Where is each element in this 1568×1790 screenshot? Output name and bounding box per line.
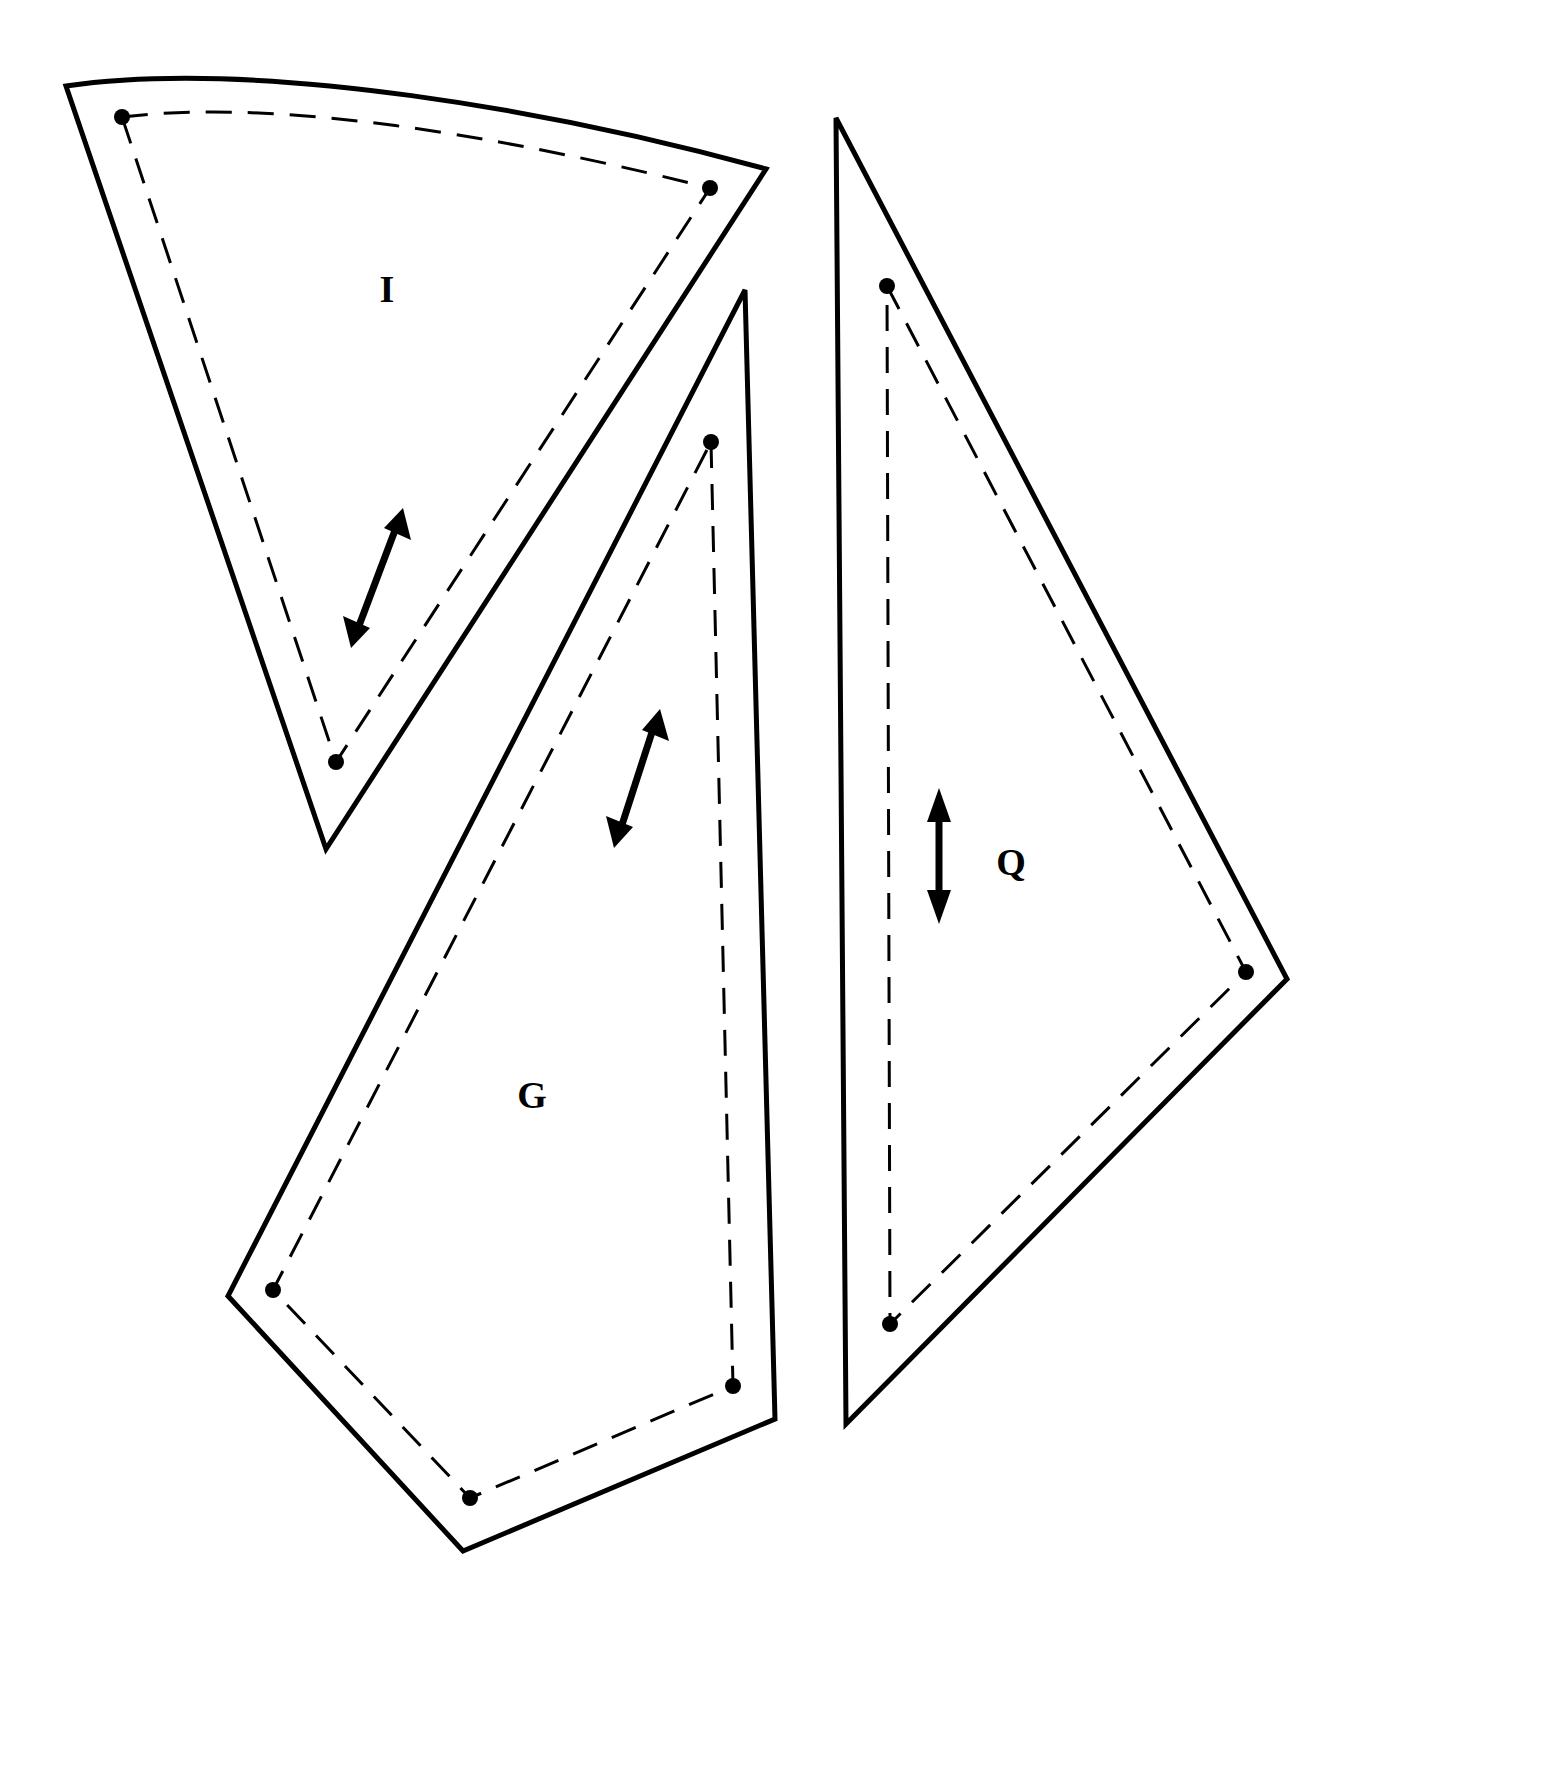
corner-dot-g-3 xyxy=(462,1490,478,1506)
corner-dot-q-2 xyxy=(1238,964,1254,980)
piece-label-q: Q xyxy=(996,841,1026,883)
corner-dot-i-1 xyxy=(114,109,130,125)
cut-line-piece-q xyxy=(836,118,1287,1424)
corner-dot-i-2 xyxy=(702,180,718,196)
pattern-sheet: I G xyxy=(0,0,1568,1790)
piece-label-i: I xyxy=(380,268,395,310)
corner-dot-q-3 xyxy=(882,1316,898,1332)
piece-label-g: G xyxy=(517,1074,547,1116)
corner-dot-g-4 xyxy=(265,1282,281,1298)
corner-dot-i-3 xyxy=(328,754,344,770)
corner-dot-g-1 xyxy=(703,434,719,450)
corner-dot-q-1 xyxy=(879,278,895,294)
corner-dot-g-2 xyxy=(725,1378,741,1394)
pattern-piece-q[interactable]: Q xyxy=(836,118,1287,1424)
pattern-canvas: I G xyxy=(0,0,1568,1790)
